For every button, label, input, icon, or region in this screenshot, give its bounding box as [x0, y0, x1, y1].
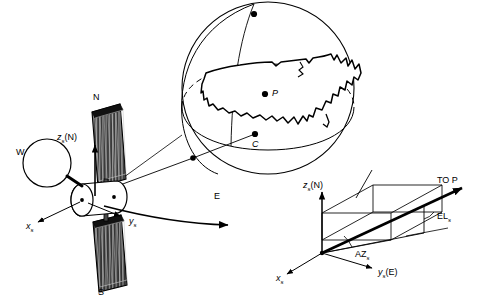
label-solar-panel-south: S	[98, 288, 104, 297]
label-inset-axis-y: ys(E)	[378, 268, 398, 279]
label-inset-azimuth-symbol: AZ	[355, 249, 367, 259]
inset-elevation-horizontal-ref	[406, 228, 448, 236]
label-solar-panel-north: N	[93, 93, 100, 102]
label-inset-axis-y-paren: (E)	[386, 267, 398, 277]
satellite-body-center-point	[80, 198, 84, 202]
label-inset-azimuth-subscript: s	[367, 255, 370, 261]
inset-axis-x	[287, 253, 322, 274]
label-direction-east: E	[214, 192, 220, 201]
inset-leader-line	[356, 170, 372, 198]
globe-north-pole-point	[251, 11, 257, 17]
label-inset-axis-x-subscript: s	[281, 279, 284, 285]
label-antenna-west: W	[16, 148, 25, 157]
label-inset-elevation-symbol: EL	[437, 211, 448, 221]
label-inset-elevation: ELs	[437, 212, 451, 223]
antenna-dish-west	[23, 139, 71, 187]
label-satellite-axis-y: ys	[129, 217, 137, 228]
satellite-body-far-point	[112, 195, 116, 199]
label-inset-azimuth: AZs	[355, 250, 370, 261]
diagram-canvas	[0, 0, 482, 301]
label-target-point-p: P	[272, 89, 278, 98]
inset-elevation-arc	[424, 212, 434, 219]
satellite-body	[71, 181, 127, 216]
antenna-dish-strut	[67, 176, 82, 186]
label-satellite-axis-x: xs	[26, 222, 34, 233]
satellite-axis-x	[38, 202, 80, 222]
label-satellite-axis-z-paren: (N)	[65, 132, 78, 142]
label-satellite-axis-y-subscript: s	[134, 222, 137, 228]
solar-panel-south	[93, 215, 127, 292]
figure-container: N S W E zs(N) xs ys P C zs(N) xs ys(E) A…	[0, 0, 482, 301]
target-point-p-marker	[262, 91, 268, 97]
solar-panel-north	[92, 104, 126, 187]
label-center-point-c: C	[252, 140, 259, 149]
satellite-to-earth-sightline	[120, 158, 193, 185]
label-satellite-axis-z: zs(N)	[57, 133, 77, 144]
label-inset-axis-x: xs	[276, 274, 284, 285]
label-inset-axis-z: zs(N)	[303, 181, 323, 192]
label-inset-axis-z-paren: (N)	[311, 180, 324, 190]
label-inset-to-point-p: TO P	[437, 176, 458, 185]
label-inset-elevation-subscript: s	[448, 217, 451, 223]
label-satellite-axis-x-subscript: s	[31, 227, 34, 233]
